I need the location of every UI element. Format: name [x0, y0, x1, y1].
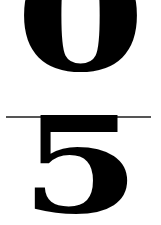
numerator: 0 [0, 0, 161, 92]
denominator: 5 [0, 100, 161, 225]
